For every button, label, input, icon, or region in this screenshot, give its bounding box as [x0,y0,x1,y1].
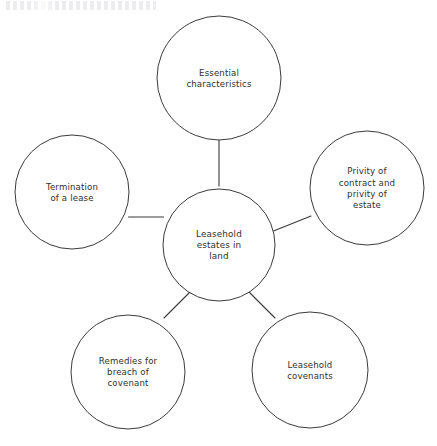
node-privity[interactable]: Privity ofcontract andprivity ofestate [310,131,424,245]
connector-hub-to-remedies [164,292,190,318]
node-termination[interactable]: Terminationof a lease [15,135,129,249]
mind-map-diagram: Essentialcharacteristics Privity ofcontr… [0,0,437,446]
connector-hub-to-leasehold-covenants [249,292,275,318]
node-remedies[interactable]: Remedies forbreach ofcovenant [71,315,185,429]
node-hub[interactable]: Leaseholdestates inland [163,189,275,301]
node-leasehold-covenants[interactable]: Leaseholdcovenants [252,312,368,428]
node-label-termination: Terminationof a lease [45,182,98,203]
diagram-canvas: Essentialcharacteristics Privity ofcontr… [0,0,437,446]
node-essential-characteristics[interactable]: Essentialcharacteristics [157,16,281,140]
connector-hub-to-privity [274,216,312,231]
node-label-leasehold-covenants: Leaseholdcovenants [287,360,333,381]
